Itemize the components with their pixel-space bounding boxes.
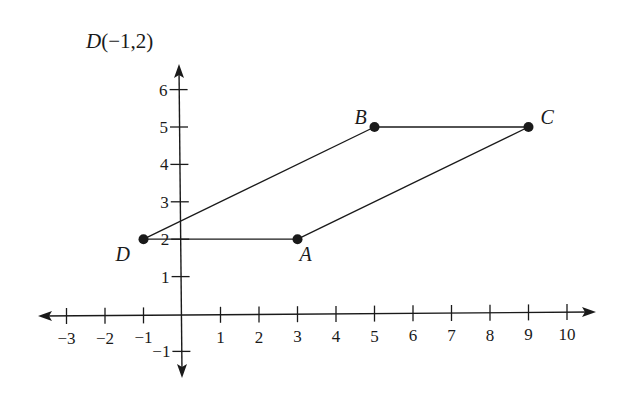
x-tick-label: 7	[447, 326, 456, 345]
axes: −3−2−112345678910−1123456	[38, 64, 596, 378]
x-tick-label: −2	[96, 329, 114, 348]
x-tick-label: 6	[409, 326, 418, 345]
point-b-dot	[370, 122, 380, 132]
point-b-label: B	[355, 106, 367, 128]
y-tick-label: 4	[160, 155, 169, 174]
parallelogram	[144, 127, 529, 239]
y-tick-label: 5	[160, 118, 169, 137]
x-tick-label: 3	[293, 327, 302, 346]
x-tick-label: 4	[332, 327, 341, 346]
y-tick-label: 3	[160, 193, 169, 212]
x-axis	[42, 312, 590, 316]
point-d-label: D	[115, 243, 131, 265]
y-tick-label: 6	[159, 81, 168, 100]
point-c-dot	[524, 122, 534, 132]
segment-ac	[298, 127, 529, 239]
segment-bd	[144, 127, 375, 239]
x-tick-label: −3	[57, 329, 75, 348]
point-a-label: A	[298, 243, 313, 265]
x-tick-label: 2	[255, 328, 264, 347]
x-tick-label: 10	[559, 325, 576, 344]
coordinate-plane: D(−1,2) −3−2−112345678910−1123456 ABCD	[0, 0, 629, 406]
x-tick-label: 5	[370, 327, 379, 346]
x-tick-label: 8	[486, 326, 495, 345]
y-tick-label: −1	[152, 342, 170, 361]
x-tick-label: −1	[134, 328, 152, 347]
point-c-label: C	[541, 106, 555, 128]
y-tick-label: 1	[161, 268, 170, 287]
x-tick-label: 9	[524, 325, 533, 344]
point-d-dot	[139, 234, 149, 244]
x-tick-label: 1	[216, 328, 225, 347]
title-label: D(−1,2)	[85, 29, 153, 53]
